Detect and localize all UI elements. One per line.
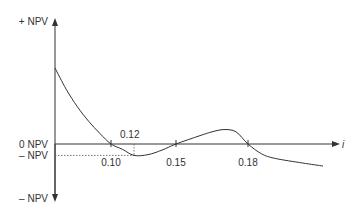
npv-chart: + NPV 0 NPV – NPV – NPV i 0.100.120.150.… (0, 0, 363, 216)
x-tick-label: 0.12 (120, 129, 140, 140)
x-axis-label: i (342, 139, 345, 150)
y-label-bottom: – NPV (19, 193, 48, 204)
y-label-top: + NPV (19, 16, 49, 27)
y-label-zero: 0 NPV (19, 139, 48, 150)
x-tick-label: 0.18 (238, 157, 258, 168)
y-label-min: – NPV (19, 150, 48, 161)
x-tick-label: 0.10 (101, 157, 121, 168)
npv-curve (55, 68, 323, 166)
x-tick-label: 0.15 (166, 157, 186, 168)
